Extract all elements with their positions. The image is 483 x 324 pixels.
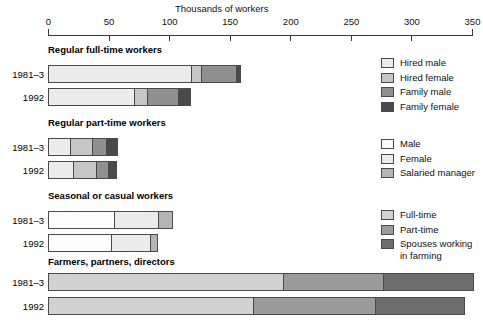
bar-segment-1-1-2 <box>97 162 109 178</box>
x-tick-label-350: 350 <box>465 16 481 27</box>
x-tick-mark-250 <box>351 35 352 41</box>
legend-swatch-icon <box>381 225 394 235</box>
bar-segment-3-1-1 <box>254 298 376 314</box>
legend-label: Family male <box>400 86 451 98</box>
legend-swatch-icon <box>381 139 394 149</box>
legend-item-hired_family-1: Hired female <box>381 72 459 87</box>
bar-segment-2-0-0 <box>49 212 115 228</box>
bar-segment-0-0-3 <box>237 66 239 82</box>
bar-segment-0-0-1 <box>192 66 203 82</box>
legend-item-male_female_manager-0: Male <box>381 138 475 153</box>
bar-segment-0-0-0 <box>49 66 192 82</box>
horizontal-stacked-bar-chart: Thousands of workers05010015020025030035… <box>0 0 483 324</box>
bar-segment-0-1-2 <box>148 89 179 105</box>
legend-swatch-icon <box>381 73 394 83</box>
x-tick-mark-200 <box>290 35 291 41</box>
bar-segment-0-1-3 <box>179 89 190 105</box>
bar-segment-1-0-1 <box>71 139 92 155</box>
group-title-2: Seasonal or casual workers <box>48 190 173 201</box>
bar-3-0 <box>48 273 474 291</box>
group-title-1: Regular part-time workers <box>48 117 166 128</box>
legend-label: Salaried manager <box>400 167 475 179</box>
bar-segment-3-0-0 <box>49 274 284 290</box>
row-label-2-1: 1992 <box>0 238 44 249</box>
legend-item-hired_family-0: Hired male <box>381 57 459 72</box>
bar-segment-1-1-1 <box>74 162 98 178</box>
x-tick-mark-100 <box>169 35 170 41</box>
legend-swatch-icon <box>381 154 394 164</box>
bar-segment-3-1-2 <box>376 298 464 314</box>
legend-label: Female <box>400 153 432 165</box>
bar-segment-2-1-1 <box>112 235 151 251</box>
legend-label: Family female <box>400 101 459 113</box>
bar-2-0 <box>48 211 173 229</box>
chart-legend-fulltime_parttime_spouses: Full-timePart-timeSpouses working in far… <box>381 209 472 263</box>
legend-label: Part-time <box>400 224 439 236</box>
legend-swatch-icon <box>381 58 394 68</box>
row-label-3-1: 1992 <box>0 301 44 312</box>
x-tick-mark-350 <box>472 29 473 36</box>
x-tick-label-150: 150 <box>222 16 238 27</box>
x-tick-mark-150 <box>230 35 231 41</box>
row-label-1-0: 1981–3 <box>0 142 44 153</box>
legend-item-male_female_manager-1: Female <box>381 153 475 168</box>
bar-2-1 <box>48 234 158 252</box>
bar-segment-0-1-1 <box>135 89 148 105</box>
x-tick-mark-300 <box>411 35 412 41</box>
bar-segment-3-0-1 <box>284 274 384 290</box>
legend-item-fulltime_parttime_spouses-1: Part-time <box>381 224 472 239</box>
bar-1-0 <box>48 138 118 156</box>
bar-segment-3-1-0 <box>49 298 254 314</box>
group-title-3: Farmers, partners, directors <box>48 256 175 267</box>
bar-segment-2-0-1 <box>115 212 159 228</box>
row-label-3-0: 1981–3 <box>0 277 44 288</box>
bar-segment-2-0-2 <box>159 212 172 228</box>
x-tick-mark-0 <box>48 29 49 36</box>
x-axis-line <box>48 35 473 36</box>
bar-segment-0-1-0 <box>49 89 135 105</box>
legend-item-hired_family-3: Family female <box>381 101 459 116</box>
legend-swatch-icon <box>381 210 394 220</box>
x-tick-label-200: 200 <box>283 16 299 27</box>
bar-segment-1-1-0 <box>49 162 74 178</box>
bar-segment-2-1-2 <box>151 235 157 251</box>
bar-segment-2-1-0 <box>49 235 112 251</box>
legend-item-male_female_manager-2: Salaried manager <box>381 167 475 182</box>
legend-label: Hired female <box>400 72 454 84</box>
group-title-0: Regular full-time workers <box>48 44 162 55</box>
legend-swatch-icon <box>381 87 394 97</box>
bar-3-1 <box>48 297 465 315</box>
bar-segment-3-0-2 <box>384 274 473 290</box>
legend-swatch-icon <box>381 102 394 112</box>
row-label-0-0: 1981–3 <box>0 69 44 80</box>
legend-item-fulltime_parttime_spouses-0: Full-time <box>381 209 472 224</box>
bar-1-1 <box>48 161 117 179</box>
row-label-0-1: 1992 <box>0 92 44 103</box>
bar-0-1 <box>48 88 191 106</box>
legend-item-hired_family-2: Family male <box>381 86 459 101</box>
x-tick-mark-50 <box>109 35 110 41</box>
row-label-1-1: 1992 <box>0 165 44 176</box>
legend-label: Hired male <box>400 57 446 69</box>
bar-segment-0-0-2 <box>202 66 237 82</box>
chart-legend-hired_family: Hired maleHired femaleFamily maleFamily … <box>381 57 459 115</box>
bar-segment-1-1-3 <box>109 162 116 178</box>
legend-item-fulltime_parttime_spouses-2: Spouses working in farming <box>381 238 472 263</box>
x-tick-label-250: 250 <box>343 16 359 27</box>
x-tick-label-300: 300 <box>404 16 420 27</box>
x-tick-label-100: 100 <box>162 16 178 27</box>
legend-swatch-icon <box>381 168 394 178</box>
legend-swatch-icon <box>381 239 394 249</box>
legend-label: Spouses working in farming <box>400 238 472 261</box>
legend-label: Male <box>400 138 421 150</box>
bar-0-0 <box>48 65 241 83</box>
x-tick-label-0: 0 <box>46 16 51 27</box>
legend-label: Full-time <box>400 209 436 221</box>
row-label-2-0: 1981–3 <box>0 215 44 226</box>
bar-segment-1-0-2 <box>93 139 107 155</box>
axis-title: Thousands of workers <box>175 3 268 14</box>
chart-legend-male_female_manager: MaleFemaleSalaried manager <box>381 138 475 182</box>
x-tick-label-50: 50 <box>104 16 115 27</box>
bar-segment-1-0-0 <box>49 139 71 155</box>
bar-segment-1-0-3 <box>107 139 118 155</box>
